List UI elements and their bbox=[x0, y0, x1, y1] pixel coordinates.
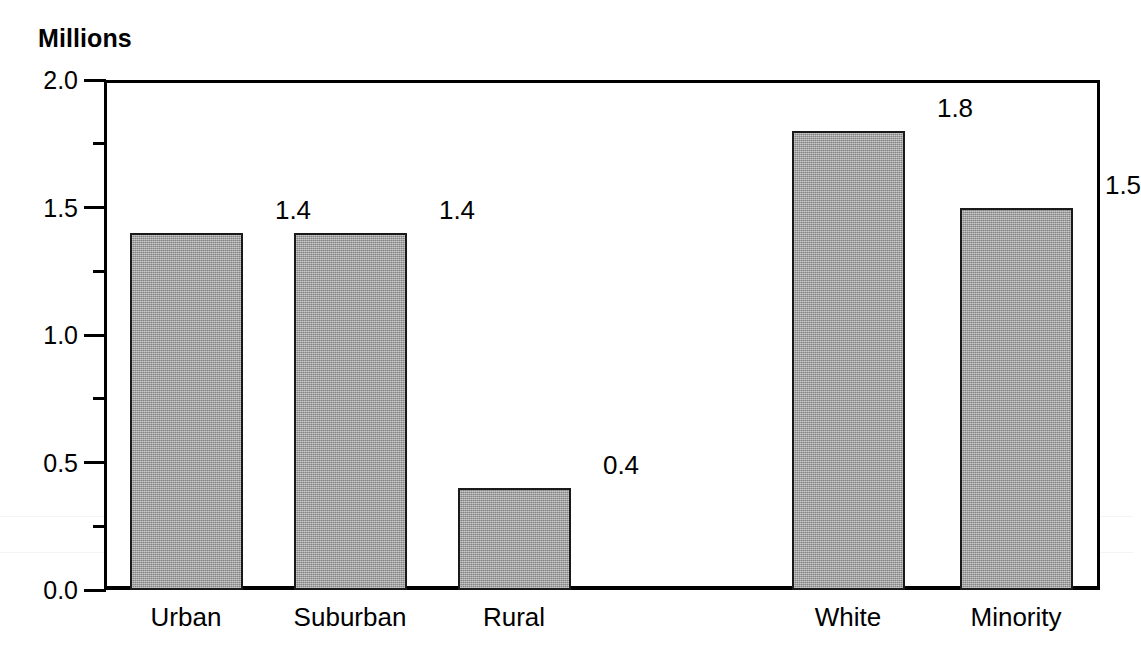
bar bbox=[294, 233, 407, 590]
x-axis-category-label: Urban bbox=[151, 604, 222, 630]
y-axis-tick-label: 0.5 bbox=[43, 451, 78, 476]
bar bbox=[960, 208, 1073, 591]
bar bbox=[458, 488, 571, 590]
bar-value-label: 0.4 bbox=[603, 452, 639, 478]
y-axis-major-tick bbox=[84, 79, 106, 82]
y-axis-labels: 2.01.51.00.50.0 bbox=[0, 80, 78, 590]
y-axis-major-tick bbox=[84, 334, 106, 337]
bar-value-label: 1.5 bbox=[1105, 172, 1141, 198]
bar bbox=[792, 131, 905, 590]
y-axis-minor-tick bbox=[93, 397, 106, 400]
y-axis-minor-tick bbox=[93, 142, 106, 145]
bar-value-label: 1.8 bbox=[937, 95, 973, 121]
x-axis-category-label: Minority bbox=[970, 604, 1061, 630]
y-axis-minor-tick bbox=[93, 525, 106, 528]
bar-value-label: 1.4 bbox=[439, 197, 475, 223]
y-axis-major-tick bbox=[84, 206, 106, 209]
bar bbox=[130, 233, 243, 590]
y-axis-ticks bbox=[82, 80, 106, 590]
y-axis-major-tick bbox=[84, 461, 106, 464]
x-axis-category-label: White bbox=[815, 604, 881, 630]
bar-value-label: 1.4 bbox=[275, 197, 311, 223]
y-axis-tick-label: 1.0 bbox=[43, 323, 78, 348]
x-axis-category-label: Suburban bbox=[294, 604, 407, 630]
x-axis-category-label: Rural bbox=[483, 604, 545, 630]
y-axis-tick-label: 1.5 bbox=[43, 196, 78, 221]
y-axis-minor-tick bbox=[93, 270, 106, 273]
plot-area: 1.41.40.41.81.5 bbox=[107, 80, 1100, 590]
y-axis-unit-caption: Millions bbox=[38, 26, 132, 51]
y-axis-major-tick bbox=[84, 589, 106, 592]
y-axis-tick-label: 0.0 bbox=[43, 578, 78, 603]
y-axis-tick-label: 2.0 bbox=[43, 68, 78, 93]
